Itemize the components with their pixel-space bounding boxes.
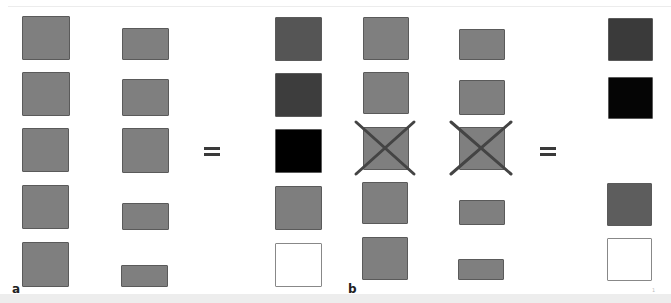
panel-b-label: b bbox=[348, 283, 357, 295]
panel-a-result-box-3 bbox=[275, 129, 322, 173]
panel-b-result-box-2 bbox=[608, 77, 653, 119]
panel-b-result-box-3 bbox=[607, 183, 652, 226]
panel-a-middle-box-1 bbox=[122, 28, 169, 60]
panel-b-left-box-5 bbox=[362, 237, 408, 280]
panel-a-middle-box-5 bbox=[121, 265, 168, 287]
panel-b-middle-box-4 bbox=[459, 200, 505, 225]
panel-a-result-box-1 bbox=[275, 17, 322, 61]
panel-b-middle-box-5 bbox=[458, 259, 504, 280]
panel-a-middle-box-2 bbox=[122, 79, 169, 116]
panel-a-middle-box-3 bbox=[122, 128, 169, 173]
panel-b-left-box-4 bbox=[362, 182, 408, 224]
panel-a-left-box-3 bbox=[22, 128, 69, 172]
panel-b-middle-box-2 bbox=[459, 80, 505, 115]
panel-b-left-box-2 bbox=[363, 72, 409, 114]
panel-b-result-box-1 bbox=[608, 18, 653, 61]
figure-frame bbox=[8, 6, 671, 295]
panel-a-left-box-2 bbox=[22, 72, 70, 116]
panel-b-result-box-4 bbox=[607, 238, 652, 281]
page-mark: 1 bbox=[652, 287, 655, 293]
panel-b-left-box-1 bbox=[363, 17, 409, 60]
panel-a-middle-box-4 bbox=[122, 203, 169, 230]
panel-b-equals-sign bbox=[540, 147, 556, 157]
panel-a-equals-sign bbox=[204, 147, 220, 157]
panel-a-left-box-4 bbox=[22, 185, 69, 229]
panel-a-result-box-5 bbox=[275, 243, 322, 287]
panel-b-middle-box-3 bbox=[459, 127, 505, 170]
panel-a-left-box-1 bbox=[22, 16, 70, 60]
panel-a-left-box-5 bbox=[22, 242, 69, 287]
bottom-bar bbox=[0, 294, 671, 303]
panel-a-result-box-2 bbox=[275, 73, 322, 117]
panel-a-label: a bbox=[12, 283, 20, 295]
panel-a-result-box-4 bbox=[275, 186, 322, 230]
panel-b-left-box-3 bbox=[363, 127, 409, 170]
panel-b-middle-box-1 bbox=[459, 29, 505, 60]
